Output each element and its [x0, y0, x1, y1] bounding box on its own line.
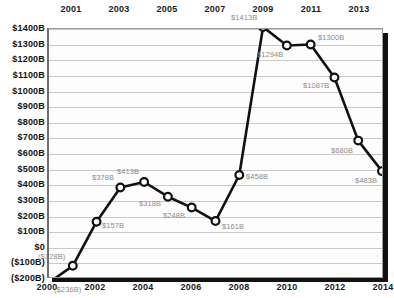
data-point-marker	[140, 178, 148, 186]
y-axis-tick-label: $600B	[17, 148, 45, 158]
data-point-marker	[331, 74, 339, 82]
data-point-marker	[212, 217, 220, 225]
data-point-label: $1300B	[318, 33, 344, 42]
x-axis-bottom-tick-label: 2004	[132, 282, 153, 292]
x-axis-bottom-tick-label: 2008	[228, 282, 249, 292]
y-axis-tick-label: $200B	[17, 211, 45, 221]
data-point-marker	[378, 167, 382, 175]
data-point-marker	[116, 184, 124, 192]
data-point-marker	[259, 29, 267, 31]
data-point-marker	[235, 171, 243, 179]
data-point-label: $378B	[92, 173, 114, 182]
x-axis-top-tick-label: 2013	[348, 4, 369, 14]
data-point-label: $318B	[139, 199, 161, 208]
data-point-label: ($128B)	[38, 252, 65, 261]
data-point-label: $458B	[246, 172, 268, 181]
x-axis-top: 2001200320052007200920112013	[0, 0, 393, 22]
y-axis-tick-label: $1000B	[12, 86, 45, 96]
y-axis-tick-label: $400B	[17, 179, 45, 189]
y-axis-tick-label: $1400B	[12, 23, 45, 33]
y-axis-tick-label: $1200B	[12, 54, 45, 64]
data-point-marker	[354, 137, 362, 145]
data-point-label: $157B	[102, 221, 124, 230]
x-axis-top-tick-label: 2011	[301, 4, 322, 14]
x-axis-bottom-tick-label: 2014	[372, 282, 393, 292]
y-axis-tick-label: $100B	[17, 226, 45, 236]
x-axis-bottom-tick-label: 2010	[276, 282, 297, 292]
x-axis-bottom-tick-label: 2006	[180, 282, 201, 292]
y-axis-tick-label: $0	[35, 242, 45, 252]
y-axis-tick-label: $500B	[17, 164, 45, 174]
y-axis-tick-label: $1100B	[13, 70, 45, 80]
x-axis-bottom-tick-label: 2002	[84, 282, 105, 292]
plot-shadow-right	[383, 33, 388, 280]
data-point-label: $1413B	[231, 13, 257, 22]
y-axis-tick-label: $700B	[17, 132, 45, 142]
data-point-label: $248B	[163, 211, 185, 220]
x-axis-top-tick-label: 2005	[156, 4, 177, 14]
data-point-label: $1294B	[257, 50, 283, 59]
data-point-label: $483B	[355, 176, 377, 185]
data-point-marker	[188, 204, 196, 212]
y-axis-tick-label: $300B	[17, 195, 45, 205]
data-point-marker	[283, 42, 291, 50]
x-axis-top-tick-label: 2003	[108, 4, 129, 14]
data-point-label: $680B	[331, 146, 353, 155]
y-axis-tick-label: $800B	[17, 117, 45, 127]
x-axis-top-tick-label: 2001	[60, 4, 81, 14]
y-axis-tick-label: $900B	[17, 101, 45, 111]
y-axis-tick-label: $1300B	[12, 39, 45, 49]
data-point-marker	[164, 193, 172, 201]
data-point-label: ($236B)	[54, 285, 81, 294]
data-point-label: $161B	[222, 222, 244, 231]
data-point-marker	[307, 41, 315, 49]
x-axis-top-tick-label: 2007	[204, 4, 225, 14]
data-point-label: $1087B	[303, 81, 329, 90]
x-axis-bottom-tick-label: 2012	[324, 282, 345, 292]
y-axis: $1400B$1300B$1200B$1100B$1000B$900B$800B…	[0, 26, 45, 278]
data-point-marker	[69, 262, 77, 270]
data-point-label: $413B	[117, 167, 139, 176]
data-point-marker	[93, 218, 101, 226]
